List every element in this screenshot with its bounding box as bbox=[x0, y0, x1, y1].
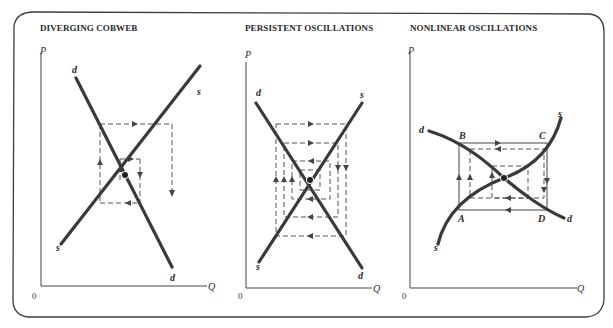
supply-label-bottom: s bbox=[256, 262, 260, 272]
panel-persistent-oscillations bbox=[246, 62, 372, 288]
axis-label-q: Q bbox=[373, 284, 380, 294]
panel-title: NONLINEAR OSCILLATIONS bbox=[410, 23, 537, 33]
panel-diverging-cobweb bbox=[41, 53, 207, 286]
axis-label-q: Q bbox=[208, 282, 215, 292]
supply-label-top: s bbox=[197, 87, 201, 97]
demand-label-top: d bbox=[256, 88, 261, 98]
axis-label-p: P bbox=[408, 46, 414, 56]
point-b-label: B bbox=[459, 131, 466, 141]
origin-label: 0 bbox=[238, 292, 243, 301]
demand-label-bottom: d bbox=[567, 214, 572, 224]
demand-label-bottom: d bbox=[358, 271, 363, 281]
origin-label: 0 bbox=[402, 292, 407, 301]
equilibrium-point bbox=[306, 176, 313, 183]
demand-label-top: d bbox=[72, 65, 77, 75]
supply-label-bottom: s bbox=[434, 243, 438, 253]
axis-label-p: P bbox=[245, 50, 251, 60]
cobweb-path bbox=[100, 124, 172, 203]
axis-label-q: Q bbox=[577, 284, 584, 294]
panel-title: PERSISTENT OSCILLATIONS bbox=[245, 23, 373, 33]
point-a-label: A bbox=[458, 214, 465, 224]
point-c-label: C bbox=[539, 131, 546, 141]
supply-label-bottom: s bbox=[56, 243, 60, 253]
axis-label-p: P bbox=[40, 46, 46, 56]
cobweb-figure: DIVERGING COBWEB P Q 0 d s s d PERSISTEN… bbox=[0, 0, 613, 328]
supply-label-top: s bbox=[360, 90, 364, 100]
equilibrium-point bbox=[121, 171, 128, 178]
supply-label-top: s bbox=[558, 109, 562, 119]
panel-title: DIVERGING COBWEB bbox=[40, 23, 137, 33]
demand-label-bottom: d bbox=[170, 273, 175, 283]
origin-label: 0 bbox=[32, 292, 37, 301]
point-d-label: D bbox=[538, 214, 545, 224]
demand-label-top: d bbox=[419, 125, 424, 135]
equilibrium-point bbox=[500, 174, 507, 181]
figure-graphics bbox=[0, 0, 613, 328]
